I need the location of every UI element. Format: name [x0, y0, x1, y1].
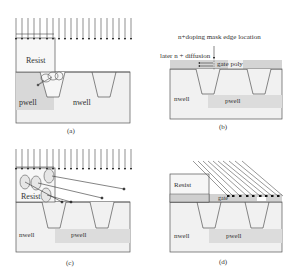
resist-block [16, 38, 55, 72]
gate-poly-label: gate poly [217, 61, 243, 68]
pwell-label: pwell [226, 233, 242, 240]
substrate [16, 202, 130, 252]
caption-d: (d) [219, 259, 227, 266]
resist-label: Resist [174, 182, 191, 189]
resist-label: Resist [26, 57, 46, 65]
well-proximity-diagram [0, 0, 299, 278]
implant-arrows [16, 149, 131, 169]
pwell-label: pwell [19, 99, 37, 107]
pwell-region [209, 229, 282, 243]
substrate [170, 202, 282, 252]
gate-label: gate [218, 195, 228, 201]
caption-c: (c) [66, 260, 74, 267]
pwell-label: pwell [71, 232, 87, 239]
nwell-label: nwell [73, 99, 91, 107]
nwell-label: nwell [174, 233, 190, 240]
implant-arrows [16, 18, 131, 39]
panel-a [16, 18, 131, 123]
pwell-label: pwell [225, 98, 241, 105]
mask-edge-label: n+doping mask edge location [178, 34, 261, 41]
pwell-region [208, 95, 282, 108]
nwell-label: nwell [174, 96, 190, 103]
diffusion-label: later n + diffusion [160, 53, 210, 60]
caption-b: (b) [219, 124, 227, 131]
nwell-label: nwell [19, 232, 35, 239]
caption-a: (a) [67, 128, 75, 135]
pwell-region [55, 229, 130, 243]
resist-label: Resist [21, 193, 41, 201]
